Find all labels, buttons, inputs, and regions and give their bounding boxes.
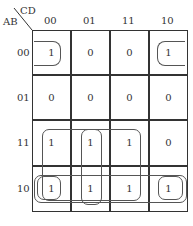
col-label-00: 00 <box>44 15 57 26</box>
row-label-01: 01 <box>17 92 30 103</box>
group-loop-row00-right <box>157 41 185 66</box>
cell-11-10: 0 <box>149 120 188 165</box>
cell-01-00: 0 <box>32 75 71 120</box>
group-loop-row10-right <box>158 176 183 200</box>
group-loop-row10-left <box>37 176 61 200</box>
row-label-10: 10 <box>17 183 30 194</box>
cell-01-01: 0 <box>71 75 110 120</box>
col-label-01: 01 <box>83 15 96 26</box>
col-var-label: CD <box>20 5 36 16</box>
row-label-00: 00 <box>17 47 30 58</box>
cell-01-11: 0 <box>110 75 149 120</box>
cell-00-01: 0 <box>71 30 110 75</box>
col-label-11: 11 <box>122 15 135 26</box>
row-var-label: AB <box>3 16 18 27</box>
cell-01-10: 0 <box>149 75 188 120</box>
row-label-11: 11 <box>17 137 30 148</box>
cell-00-11: 0 <box>110 30 149 75</box>
group-loop-row00-left <box>34 41 61 66</box>
col-label-10: 10 <box>161 15 174 26</box>
